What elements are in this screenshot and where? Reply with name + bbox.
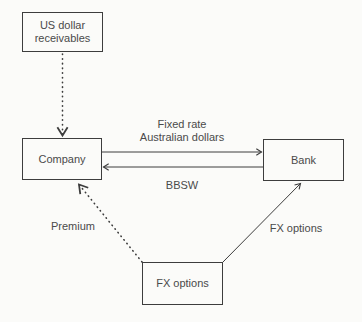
node-label: Bank — [291, 154, 316, 167]
edge-label-fx-options: FX options — [270, 222, 323, 235]
node-label: Company — [38, 153, 85, 166]
node-us-dollar-receivables: US dollar receivables — [22, 12, 103, 52]
node-label-line2: receivables — [35, 32, 91, 45]
edge-label-fixed-rate-australian-dollars: Fixed rate Australian dollars — [140, 118, 224, 144]
diagram-canvas: US dollar receivables Company Bank FX op… — [0, 0, 362, 322]
node-label-line1: US dollar — [40, 19, 85, 32]
edge-label-line2: Australian dollars — [140, 131, 224, 144]
node-bank: Bank — [263, 139, 344, 181]
edge-label-premium: Premium — [51, 220, 95, 233]
node-label: FX options — [156, 277, 209, 290]
edge-label-bbsw: BBSW — [166, 179, 198, 192]
edge-label-line1: Fixed rate — [140, 118, 224, 131]
node-fx-options: FX options — [142, 262, 223, 305]
node-company: Company — [22, 138, 102, 180]
